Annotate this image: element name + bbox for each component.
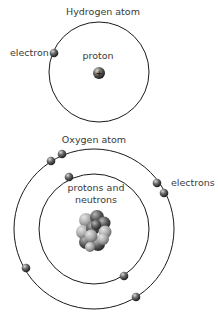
proton-plus-sign: + [96,69,103,78]
hydrogen-title: Hydrogen atom [66,6,140,17]
hydrogen-atom: Hydrogen atom proton + electron [10,6,149,122]
oxygen-electron [58,150,67,159]
atom-diagram: Hydrogen atom proton + electron Oxygen a… [0,0,218,321]
oxygen-atom: Oxygen atom protons and neutrons electro… [14,134,215,309]
oxygen-electron [120,272,129,281]
nucleus-label-line1: protons and [68,182,125,193]
proton-label: proton [82,50,113,61]
nucleus-label-line2: neutrons [75,194,117,205]
hydrogen-electron [50,49,59,58]
oxygen-electron [132,293,141,302]
oxygen-electron [160,189,169,198]
oxygen-title: Oxygen atom [62,134,126,145]
oxygen-electron [153,179,162,188]
oxygen-electron [65,173,74,182]
oxygen-electron [22,264,31,273]
oxygen-electron [47,157,56,166]
oxygen-nucleus [76,210,112,252]
electron-label: electron [10,47,49,58]
electrons-label: electrons [171,177,215,188]
